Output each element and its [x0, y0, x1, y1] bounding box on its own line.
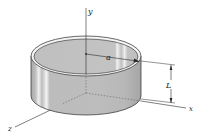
height-dimension: L	[141, 61, 175, 103]
radius-label: a	[106, 53, 111, 62]
cylinder-diagram: y a x z L	[0, 0, 203, 136]
x-axis-label: x	[189, 105, 193, 113]
height-label: L	[165, 81, 171, 90]
x-axis: x	[141, 101, 193, 113]
y-axis-label: y	[87, 7, 93, 16]
z-axis-label: z	[7, 125, 12, 133]
